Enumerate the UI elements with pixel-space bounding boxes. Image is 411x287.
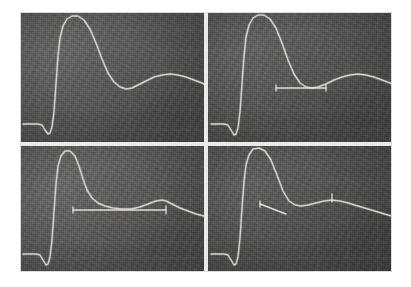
waveform-trace — [23, 16, 204, 134]
figure-root — [0, 0, 411, 287]
graticule-top-right — [208, 12, 392, 142]
waveform-plot-bottom-right — [208, 146, 392, 272]
scope-panel-bottom-right[interactable] — [208, 146, 392, 272]
waveform-plot-bottom-left — [20, 146, 204, 272]
scope-panel-bottom-left[interactable] — [20, 146, 204, 272]
scope-panel-top-left[interactable] — [20, 12, 204, 142]
measurement-cursor-diagonal[interactable] — [260, 204, 286, 214]
waveform-plot-top-left — [20, 12, 204, 142]
waveform-plot-top-right — [208, 12, 392, 142]
scope-panel-top-right[interactable] — [208, 12, 392, 142]
panel-mount — [20, 12, 392, 272]
panel-divider-horizontal — [20, 142, 392, 146]
